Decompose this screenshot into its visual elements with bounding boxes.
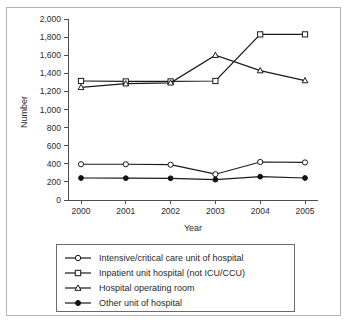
data-point-marker: [213, 78, 218, 83]
figure-container: 02004006008001,0001,2001,4001,6001,8002,…: [0, 0, 354, 327]
legend-item-label: Inpatient unit hospital (not ICU/CCU): [99, 267, 245, 279]
y-axis-tick-label: 1,600: [40, 50, 62, 60]
legend-rows: Intensive/critical care unit of hospital…: [57, 245, 294, 310]
y-axis-tick-label: 1,800: [40, 32, 62, 42]
data-point-marker: [123, 176, 128, 181]
y-axis-tick-label: 1,000: [40, 105, 62, 115]
data-point-marker: [79, 176, 84, 181]
legend-item: Inpatient unit hospital (not ICU/CCU): [64, 265, 294, 280]
legend-marker-filled-circle-icon: [64, 297, 92, 309]
legend-marker-open-circle-icon: [64, 252, 92, 264]
axes-group: 02004006008001,0001,2001,4001,6001,8002,…: [40, 14, 318, 216]
legend-item: Other unit of hospital: [64, 295, 294, 310]
data-series: [78, 52, 308, 89]
x-axis-tick-label: 2005: [296, 206, 315, 216]
y-axis-tick-label: 0: [56, 195, 61, 205]
data-point-marker: [123, 162, 128, 167]
series-group: [78, 32, 308, 182]
legend-marker-open-triangle-icon: [64, 282, 92, 294]
x-axis-tick-label: 2002: [161, 206, 180, 216]
data-point-marker: [258, 159, 263, 164]
legend-item-label: Hospital operating room: [99, 282, 195, 294]
y-axis-tick-label: 1,200: [40, 86, 62, 96]
data-point-marker: [213, 172, 218, 177]
data-point-marker: [213, 52, 219, 57]
data-point-marker: [258, 174, 263, 179]
data-point-marker: [258, 32, 263, 37]
legend-item-label: Intensive/critical care unit of hospital: [99, 252, 244, 264]
data-point-marker: [303, 176, 308, 181]
y-axis-tick-label: 1,400: [40, 68, 62, 78]
y-axis-tick-label: 600: [47, 141, 61, 151]
x-axis-tick-label: 2003: [206, 206, 225, 216]
legend-item: Hospital operating room: [64, 280, 294, 295]
x-axis-tick-label: 2000: [72, 206, 91, 216]
legend-marker-open-square-icon: [64, 267, 92, 279]
x-axis-tick-label: 2004: [251, 206, 270, 216]
x-axis-title: Year: [184, 223, 202, 233]
data-point-marker: [213, 177, 218, 182]
data-series: [78, 32, 307, 84]
y-axis-title: Number: [19, 96, 29, 128]
x-axis-tick-label: 2001: [116, 206, 135, 216]
y-axis-tick-label: 400: [47, 159, 61, 169]
y-axis-tick-label: 800: [47, 123, 61, 133]
y-axis-tick-label: 200: [47, 177, 61, 187]
data-point-marker: [168, 176, 173, 181]
data-point-marker: [78, 162, 83, 167]
data-series: [78, 159, 307, 176]
data-point-marker: [302, 160, 307, 165]
y-axis-tick-label: 2,000: [40, 14, 62, 24]
data-series: [79, 174, 308, 182]
data-point-marker: [302, 32, 307, 37]
legend-item-label: Other unit of hospital: [99, 297, 182, 309]
legend-box: Intensive/critical care unit of hospital…: [56, 244, 295, 312]
data-point-marker: [78, 78, 83, 83]
legend-item: Intensive/critical care unit of hospital: [64, 250, 294, 265]
data-point-marker: [168, 162, 173, 167]
